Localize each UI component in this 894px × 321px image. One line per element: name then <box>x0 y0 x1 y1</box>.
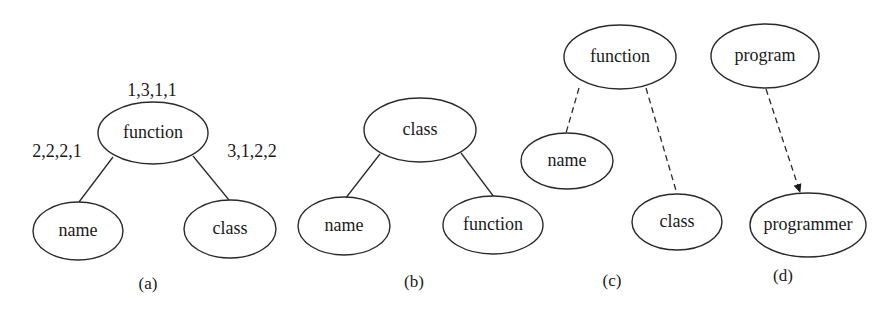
node-class: class <box>632 194 722 250</box>
node-class: class <box>184 200 276 258</box>
node-annotation: 1,3,1,1 <box>127 80 177 100</box>
node-label: name <box>59 220 98 240</box>
node-label: class <box>213 218 248 238</box>
diagram-a: function 1,3,1,1 name 2,2,2,1 class 3,1,… <box>32 80 277 293</box>
node-function: function <box>443 196 543 254</box>
diagram-d: program programmer (d) <box>711 24 866 285</box>
edge-function-class <box>646 88 677 194</box>
caption: (b) <box>404 272 424 291</box>
node-class: class <box>364 98 476 162</box>
node-program: program <box>711 24 819 88</box>
node-annotation: 3,1,2,2 <box>227 141 277 161</box>
node-programmer: programmer <box>750 193 866 257</box>
edge-program-programmer <box>766 89 800 192</box>
node-label: programmer <box>764 214 853 234</box>
node-function: function <box>564 25 676 89</box>
node-label: program <box>735 45 796 65</box>
node-name: name <box>298 197 390 255</box>
edge-function-name <box>79 157 113 202</box>
diagram-c: function name class (c) <box>521 25 722 290</box>
edge-class-function <box>461 153 494 197</box>
node-label: name <box>548 150 587 170</box>
node-label: function <box>123 122 183 142</box>
node-label: class <box>660 211 695 231</box>
caption: (a) <box>139 274 158 293</box>
node-annotation: 2,2,2,1 <box>32 141 82 161</box>
diagram-canvas: function 1,3,1,1 name 2,2,2,1 class 3,1,… <box>0 0 894 321</box>
caption: (c) <box>603 271 622 290</box>
edge-function-class <box>193 156 229 200</box>
node-label: function <box>463 214 523 234</box>
node-name: name <box>33 202 123 260</box>
node-name: name <box>521 133 613 189</box>
node-label: class <box>403 119 438 139</box>
diagram-b: class name function (b) <box>298 98 543 291</box>
node-function: function <box>98 102 208 164</box>
edge-class-name <box>345 154 380 199</box>
edge-function-name <box>566 88 579 133</box>
node-label: function <box>590 46 650 66</box>
caption: (d) <box>773 266 793 285</box>
node-label: name <box>325 215 364 235</box>
